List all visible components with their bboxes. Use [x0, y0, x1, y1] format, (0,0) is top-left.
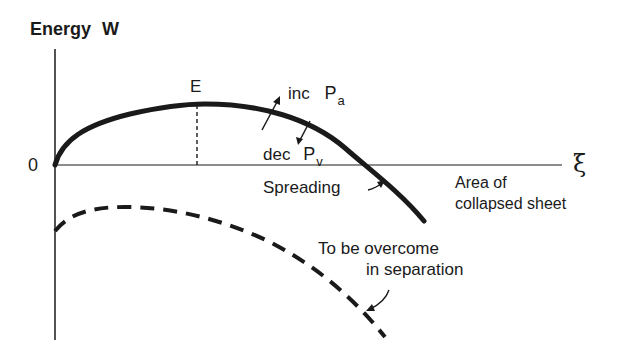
- overcome-label-line1: To be overcome: [318, 240, 439, 257]
- spreading-label: Spreading: [263, 179, 341, 196]
- x-axis-symbol: ξ: [573, 152, 586, 176]
- overcome-label-line2: in separation: [366, 261, 463, 278]
- dec-sub: v: [316, 154, 323, 169]
- x-axis-label-line2: collapsed sheet: [455, 196, 566, 212]
- inc-prefix: inc: [288, 84, 310, 103]
- x-axis-label-line1: Area of: [455, 175, 507, 191]
- inc-pa-label: inc Pa: [288, 84, 345, 102]
- dec-prefix: dec: [263, 145, 290, 164]
- y-axis-label: Energy W: [30, 20, 119, 38]
- peak-label: E: [190, 78, 201, 95]
- separation-curve: [55, 207, 385, 337]
- spreading-arrow-icon: [368, 180, 385, 190]
- energy-curve: [55, 104, 424, 221]
- overcome-arrow-icon: [366, 290, 389, 311]
- origin-label: 0: [28, 156, 38, 174]
- dec-pv-label: dec Pv: [263, 145, 323, 163]
- dec-var: P: [303, 144, 315, 164]
- inc-sub: a: [337, 93, 344, 108]
- inc-var: P: [324, 83, 336, 103]
